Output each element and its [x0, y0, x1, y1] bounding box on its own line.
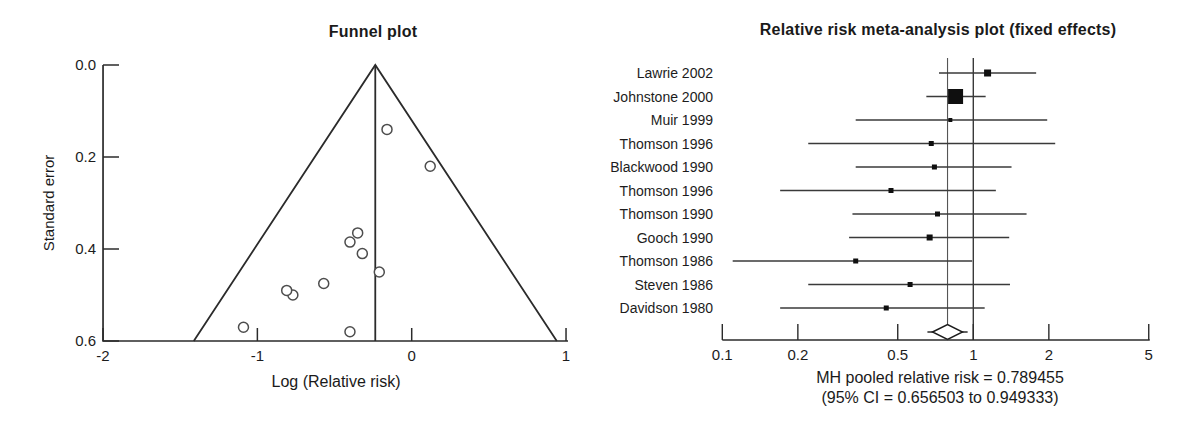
forest-study-label: Gooch 1990 [637, 230, 713, 246]
forest-study-label: Thomson 1996 [620, 183, 714, 199]
forest-x-tick-label: 0.2 [787, 346, 808, 363]
forest-point-square [927, 235, 933, 241]
forest-study-label: Steven 1986 [634, 277, 713, 293]
funnel-y-tick-label: 0.0 [75, 56, 96, 73]
forest-study-label: Johnstone 2000 [613, 89, 713, 105]
figure-canvas: 0.00.20.40.6-2-101Lawrie 2002Johnstone 2… [0, 0, 1194, 429]
forest-point-square [948, 118, 952, 122]
funnel-data-point [382, 124, 392, 134]
forest-point-square [984, 70, 991, 77]
funnel-data-point [357, 249, 367, 259]
charts-svg: 0.00.20.40.6-2-101Lawrie 2002Johnstone 2… [0, 0, 1194, 429]
forest-study-label: Muir 1999 [651, 112, 713, 128]
funnel-y-tick-label: 0.4 [75, 240, 96, 257]
funnel-x-axis-label: Log (Relative risk) [272, 373, 401, 391]
funnel-data-point [425, 161, 435, 171]
forest-plot-title: Relative risk meta-analysis plot (fixed … [760, 21, 1116, 39]
forest-point-square [932, 165, 937, 170]
forest-x-tick-label: 0.5 [887, 346, 908, 363]
funnel-data-point [238, 322, 248, 332]
forest-study-label: Thomson 1996 [620, 136, 714, 152]
forest-point-square [853, 259, 858, 264]
funnel-x-tick-label: -1 [251, 347, 264, 364]
funnel-data-point [319, 279, 329, 289]
forest-point-square [908, 282, 913, 287]
forest-pooled-caption-line1: MH pooled relative risk = 0.789455 [816, 368, 1064, 388]
forest-pooled-caption: MH pooled relative risk = 0.789455 (95% … [816, 368, 1064, 408]
forest-pooled-diamond [933, 325, 963, 340]
funnel-data-point [345, 237, 355, 247]
forest-point-square [935, 212, 940, 217]
forest-study-label: Thomson 1986 [620, 253, 714, 269]
funnel-data-point [374, 267, 384, 277]
funnel-y-axis-label: Standard error [40, 155, 57, 252]
forest-study-label: Thomson 1990 [620, 206, 714, 222]
forest-study-label: Blackwood 1990 [610, 159, 713, 175]
forest-pooled-caption-line2: (95% CI = 0.656503 to 0.949333) [816, 388, 1064, 408]
forest-x-tick-label: 5 [1145, 346, 1153, 363]
funnel-x-tick-label: 1 [562, 347, 570, 364]
forest-point-square [884, 306, 889, 311]
funnel-y-tick-label: 0.6 [75, 332, 96, 349]
forest-point-square [948, 89, 963, 104]
forest-point-square [888, 188, 893, 193]
forest-x-tick-label: 1 [969, 346, 977, 363]
forest-point-square [929, 141, 934, 146]
forest-x-tick-label: 0.1 [712, 346, 733, 363]
funnel-data-point [282, 285, 292, 295]
funnel-y-tick-label: 0.2 [75, 148, 96, 165]
forest-x-tick-label: 2 [1045, 346, 1053, 363]
forest-study-label: Davidson 1980 [620, 300, 714, 316]
funnel-axes [103, 65, 568, 341]
funnel-data-point [353, 228, 363, 238]
funnel-x-tick-label: 0 [408, 347, 416, 364]
forest-study-label: Lawrie 2002 [637, 65, 713, 81]
funnel-data-point [345, 327, 355, 337]
funnel-plot-title: Funnel plot [329, 23, 417, 41]
funnel-x-tick-label: -2 [96, 347, 109, 364]
